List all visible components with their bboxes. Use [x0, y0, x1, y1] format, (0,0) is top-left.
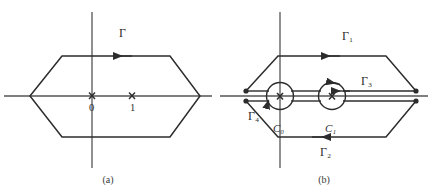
endpoint-dot-lower-left [243, 98, 248, 103]
panel-a: Γ 0 1 (a) [0, 0, 216, 193]
label-gamma1: Γ₁ [342, 29, 353, 43]
label-gamma4: Γ₄ [248, 109, 259, 123]
label-pole-1: 1 [130, 102, 135, 113]
label-c0: C₀ [273, 122, 284, 134]
panel-a-svg: Γ 0 1 [0, 0, 216, 193]
endpoint-dot-upper-right [413, 88, 418, 93]
caption-b: (b) [216, 174, 432, 185]
panel-b-svg: Γ₁ Γ₂ Γ₃ Γ₄ C₀ C₁ [216, 0, 432, 193]
caption-a: (a) [0, 174, 216, 185]
c0-direction-arrow [268, 101, 269, 104]
label-gamma2: Γ₂ [320, 145, 331, 159]
label-c1: C₁ [325, 122, 336, 134]
panel-b: Γ₁ Γ₂ Γ₃ Γ₄ C₀ C₁ (b) [216, 0, 432, 193]
label-gamma: Γ [119, 26, 126, 40]
figure-root: Γ 0 1 (a) [0, 0, 432, 193]
label-gamma3: Γ₃ [361, 74, 372, 88]
label-pole-0: 0 [89, 102, 94, 113]
endpoint-dot-upper-left [243, 88, 248, 93]
endpoint-dot-lower-right [413, 98, 418, 103]
